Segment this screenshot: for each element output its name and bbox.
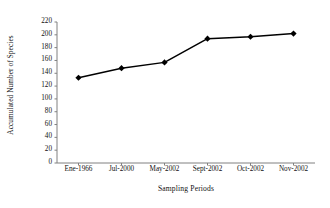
data-point-marker xyxy=(161,59,167,65)
data-point-marker xyxy=(75,75,81,81)
series-line xyxy=(79,34,294,78)
data-point-marker xyxy=(247,34,253,40)
x-axis-title: Sampling Periods xyxy=(57,184,315,193)
data-point-marker xyxy=(290,30,296,36)
data-point-marker xyxy=(204,36,210,42)
plot-area xyxy=(0,0,330,208)
data-point-marker xyxy=(118,65,124,71)
series-markers xyxy=(75,30,296,80)
species-accumulation-chart: Accumulated Number of Species 0204060801… xyxy=(0,0,330,208)
